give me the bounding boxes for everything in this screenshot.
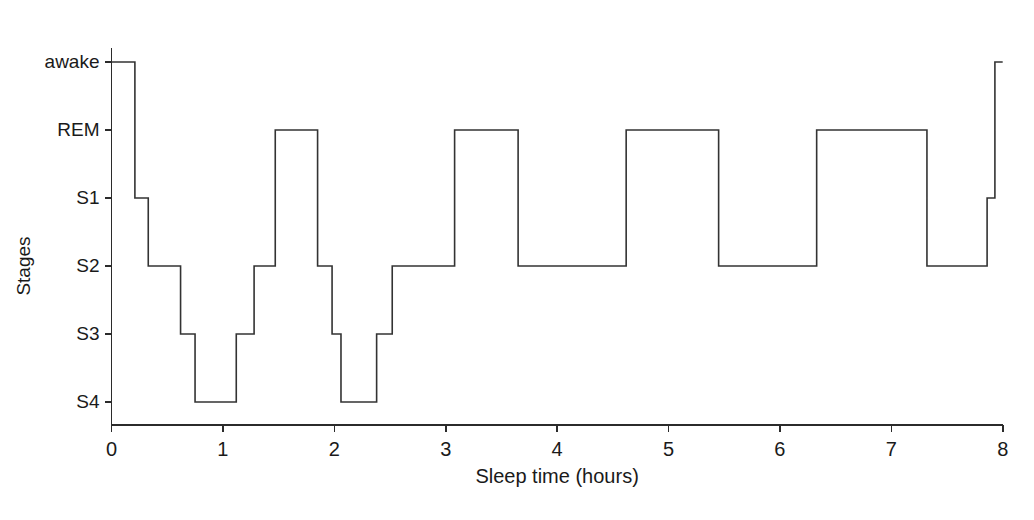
axis-tick-marks bbox=[105, 62, 1003, 432]
x-tick-label-4: 4 bbox=[552, 438, 563, 460]
y-axis-title: Stages bbox=[13, 236, 34, 295]
x-tick-label-0: 0 bbox=[106, 438, 117, 460]
x-axis-title: Sleep time (hours) bbox=[475, 465, 638, 487]
x-tick-label-2: 2 bbox=[329, 438, 340, 460]
y-tick-label-s4: S4 bbox=[76, 391, 100, 412]
hypnogram-figure: awakeREMS1S2S3S4 012345678 Stages Sleep … bbox=[0, 0, 1034, 520]
y-axis-tick-labels: awakeREMS1S2S3S4 bbox=[45, 51, 100, 412]
y-tick-label-s1: S1 bbox=[76, 187, 99, 208]
x-axis-tick-labels: 012345678 bbox=[106, 438, 1008, 460]
x-tick-label-8: 8 bbox=[997, 438, 1008, 460]
x-tick-label-7: 7 bbox=[886, 438, 897, 460]
y-tick-label-s2: S2 bbox=[76, 255, 99, 276]
sleep-hypnogram-chart: awakeREMS1S2S3S4 012345678 Stages Sleep … bbox=[0, 0, 1034, 520]
y-tick-label-awake: awake bbox=[45, 51, 100, 72]
x-tick-label-5: 5 bbox=[663, 438, 674, 460]
y-tick-label-s3: S3 bbox=[76, 323, 99, 344]
x-tick-label-3: 3 bbox=[440, 438, 451, 460]
x-tick-label-1: 1 bbox=[217, 438, 228, 460]
y-tick-label-rem: REM bbox=[57, 119, 99, 140]
hypnogram-step-line bbox=[112, 62, 1003, 402]
x-tick-label-6: 6 bbox=[774, 438, 785, 460]
